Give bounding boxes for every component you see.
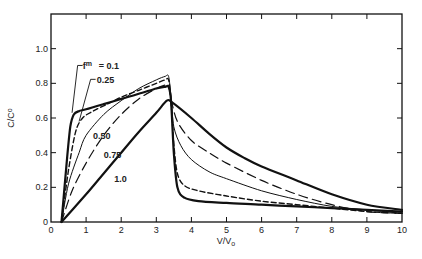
series-label-0-1: = 0.1 <box>99 61 119 71</box>
x-axis-label: V/Vo <box>217 236 236 247</box>
legend-prefix: fm <box>83 60 92 71</box>
y-tick-label: 0.2 <box>35 182 48 192</box>
x-tick-label: 8 <box>329 225 334 235</box>
x-tick-label: 5 <box>224 225 229 235</box>
x-tick-label: 2 <box>119 225 124 235</box>
series-label-0-75: 0.75 <box>104 150 122 160</box>
y-tick-label: 1.0 <box>35 44 48 54</box>
x-tick-label: 4 <box>189 225 194 235</box>
x-tick-label: 3 <box>154 225 159 235</box>
leader-line-0-1 <box>72 65 83 112</box>
leader-line-0-25 <box>79 79 96 121</box>
series-label-0-50: 0.50 <box>93 131 111 141</box>
y-tick-label: 0 <box>43 217 48 227</box>
y-tick-label: 0.8 <box>35 78 48 88</box>
series-labels: fm= 0.10.250.500.751.0 <box>72 60 127 184</box>
x-tick-label: 7 <box>294 225 299 235</box>
x-tick-label: 1 <box>84 225 89 235</box>
series-label-0-25: 0.25 <box>97 75 115 85</box>
x-tick-label: 0 <box>48 225 53 235</box>
y-tick-label: 0.4 <box>35 148 48 158</box>
series-lines <box>62 75 403 222</box>
x-tick-label: 6 <box>259 225 264 235</box>
x-tick-label: 10 <box>397 225 407 235</box>
y-axis-label: C/Co <box>6 108 16 128</box>
x-tick-label: 9 <box>364 225 369 235</box>
y-tick-label: 0.6 <box>35 113 48 123</box>
plot-frame <box>51 14 402 222</box>
chart: 012345678910 00.20.40.60.81.0 fm= 0.10.2… <box>0 0 422 259</box>
series-label-1-0: 1.0 <box>114 174 127 184</box>
